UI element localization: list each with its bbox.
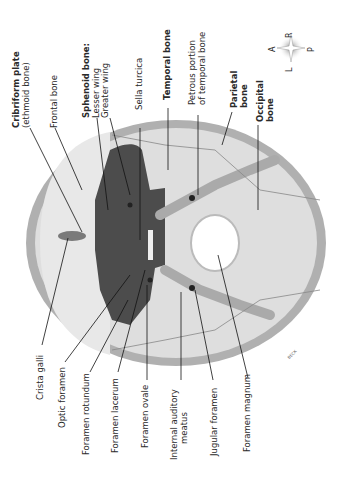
- label-foramen-magnum: Foramen magnum: [243, 374, 253, 452]
- label-petrous-portion: Petrous portion of temporal bone: [188, 32, 207, 105]
- foramen-magnum-shape: [191, 215, 239, 271]
- compass-l: L: [285, 68, 295, 72]
- label-foramen-lacerum: Foramen lacerum: [111, 378, 121, 453]
- label-foramen-rotundum: Foramen rotundum: [82, 373, 92, 455]
- label-crista-galli: Crista galli: [36, 355, 46, 400]
- compass-r: R: [285, 32, 295, 38]
- auditory-meatus-dot: [189, 195, 195, 201]
- compass-a: A: [268, 47, 278, 52]
- sella-turcica-shape: [148, 230, 153, 260]
- label-occipital-bone: Occipital bone: [256, 80, 275, 122]
- label-cribriform-plate: Cribriform plate (ethmoid bone): [12, 51, 31, 128]
- label-parietal-bone: Parietal bone: [230, 71, 249, 108]
- label-optic-foramen: Optic foramen: [58, 367, 68, 428]
- crista-galli-shape: [58, 231, 86, 241]
- label-sella-turcica: Sella turcica: [135, 58, 145, 110]
- label-temporal-bone: Temporal bone: [163, 29, 173, 100]
- ovale-dot: [148, 278, 153, 283]
- label-jugular-foramen: Jugular foramen: [210, 388, 220, 456]
- rotundum-dot: [128, 203, 133, 208]
- label-sphenoid-bone: Sphenoid bone: Lesser wing Greater wing: [82, 43, 111, 118]
- compass-p: P: [307, 47, 317, 52]
- label-frontal-bone: Frontal bone: [50, 75, 60, 128]
- orientation-compass: [277, 34, 305, 62]
- jugular-foramen-dot: [189, 285, 195, 291]
- label-foramen-ovale: Foramen ovale: [141, 385, 151, 448]
- label-internal-auditory-meatus: Internal auditory meatus: [170, 389, 189, 460]
